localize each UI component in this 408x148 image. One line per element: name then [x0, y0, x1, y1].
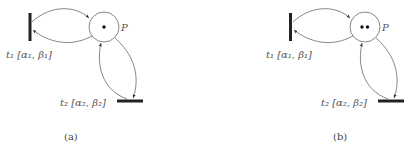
- arc-t1-to-p: [293, 9, 350, 22]
- t2-label: t₂ [α₂, β₂]: [321, 97, 367, 108]
- arc-t2-to-p: [99, 43, 127, 99]
- arc-p-to-t2: [376, 38, 397, 98]
- t1-label: t₁ [α₁, β₁]: [6, 49, 52, 60]
- t2-label: t₂ [α₂, β₂]: [60, 97, 106, 108]
- token: [360, 25, 363, 28]
- token: [102, 25, 105, 28]
- transition-t2: [117, 100, 143, 103]
- token: [366, 25, 369, 28]
- petri-net-figure: P t₁ [α₁, β₁] t₂ [α₂, β₂] (a) P t₁ [α₁, …: [0, 0, 408, 148]
- transition-t2: [378, 100, 404, 103]
- arc-p-to-t2: [115, 38, 136, 98]
- place-label: P: [120, 22, 128, 33]
- panel-b: P t₁ [α₁, β₁] t₂ [α₂, β₂] (b): [266, 9, 404, 142]
- arc-p-to-t1: [294, 30, 353, 43]
- place-p: [350, 12, 380, 42]
- caption-b: (b): [333, 131, 347, 142]
- arc-t1-to-p: [32, 9, 89, 22]
- transition-t1: [29, 13, 32, 41]
- panel-a: P t₁ [α₁, β₁] t₂ [α₂, β₂] (a): [6, 9, 143, 142]
- arc-t2-to-p: [360, 43, 388, 99]
- arc-p-to-t1: [33, 30, 92, 43]
- t1-label: t₁ [α₁, β₁]: [266, 49, 312, 60]
- caption-a: (a): [64, 131, 78, 142]
- transition-t1: [289, 13, 292, 41]
- place-label: P: [381, 22, 389, 33]
